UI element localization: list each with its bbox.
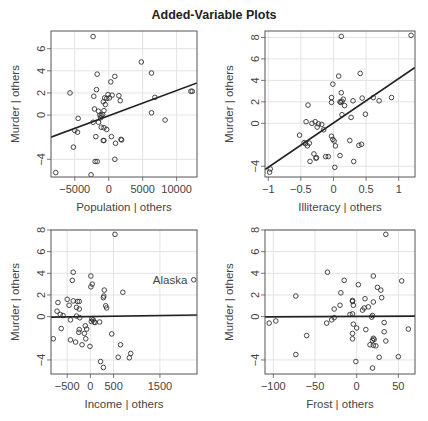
data-point <box>109 134 114 139</box>
data-point <box>58 312 63 317</box>
y-axis-label: Murder | others <box>9 263 21 341</box>
data-point <box>332 307 337 312</box>
y-tick-label: 6 <box>35 249 47 255</box>
data-point <box>116 355 121 360</box>
data-point <box>336 74 341 79</box>
data-point <box>377 355 382 360</box>
plot-frame <box>51 31 197 177</box>
regression-line <box>265 316 415 317</box>
data-point <box>294 294 299 299</box>
data-point <box>267 321 272 326</box>
y-tick-label: 0 <box>35 112 47 118</box>
data-point <box>117 93 122 98</box>
x-axis-label: Illiteracy | others <box>298 201 382 213</box>
added-variable-plots: −50000500010000−40246Population | others… <box>0 0 428 421</box>
data-point <box>113 141 118 146</box>
data-point <box>306 103 311 108</box>
data-point <box>377 98 382 103</box>
data-point <box>339 290 344 295</box>
data-point <box>149 111 154 116</box>
grid <box>265 230 415 374</box>
data-point <box>351 322 356 327</box>
y-tick-label: 0 <box>249 120 261 126</box>
data-point <box>371 274 376 279</box>
data-point <box>379 288 384 293</box>
x-tick-label: 1 <box>396 183 402 195</box>
data-point <box>94 134 99 139</box>
y-tick-label: 4 <box>249 270 261 276</box>
x-tick-label: 50 <box>392 380 404 392</box>
data-point <box>389 95 394 100</box>
y-tick-label: 2 <box>35 90 47 96</box>
data-point <box>59 326 64 331</box>
y-tick-label: 0 <box>35 314 47 320</box>
data-point <box>324 321 329 326</box>
y-axis-label: Murder | others <box>223 263 235 341</box>
x-tick-label: 10000 <box>161 183 192 195</box>
data-point <box>101 365 106 370</box>
data-point <box>76 116 81 121</box>
panel-illiteracy: −1−0.500.51−402468Illiteracy | othersMur… <box>223 31 415 213</box>
data-point <box>347 138 352 143</box>
data-point <box>399 279 404 284</box>
y-tick-label: 4 <box>249 77 261 83</box>
x-tick-label: 0 <box>87 380 93 392</box>
data-point <box>409 33 414 38</box>
scatter-points <box>51 232 196 370</box>
y-tick-label: 2 <box>35 292 47 298</box>
data-point <box>406 327 411 332</box>
y-tick-label: 6 <box>35 46 47 52</box>
x-tick-label: 0 <box>330 183 336 195</box>
data-point <box>338 303 343 308</box>
data-point <box>80 342 85 347</box>
data-point <box>68 338 73 343</box>
data-point <box>370 366 375 371</box>
data-point <box>53 170 58 175</box>
x-axis-label: Income | others <box>84 398 163 410</box>
x-tick-label: −1 <box>262 183 275 195</box>
data-point <box>342 103 347 108</box>
data-point <box>363 112 368 117</box>
data-point <box>325 270 330 275</box>
data-point <box>360 96 365 101</box>
data-point <box>83 337 88 342</box>
data-point <box>349 115 354 120</box>
point-annotation: Alaska <box>153 274 188 286</box>
data-point <box>350 331 355 336</box>
x-axis-label: Population | others <box>76 201 172 213</box>
x-tick-label: 0 <box>354 380 360 392</box>
data-point <box>70 278 75 283</box>
y-tick-label: 2 <box>249 99 261 105</box>
data-point <box>97 320 102 325</box>
data-point <box>308 159 313 164</box>
data-point <box>384 232 389 237</box>
y-tick-label: −4 <box>35 354 47 367</box>
data-point <box>149 71 154 76</box>
y-tick-label: 8 <box>249 34 261 40</box>
y-tick-label: −4 <box>249 160 261 173</box>
data-point <box>331 82 336 87</box>
data-point <box>319 122 324 127</box>
panel-income: −50005001500−402468Income | othersMurder… <box>9 227 197 410</box>
x-tick-label: 0 <box>106 183 112 195</box>
data-point <box>382 329 387 334</box>
data-point <box>191 278 196 283</box>
grid <box>51 31 197 177</box>
x-tick-label: −500 <box>55 380 80 392</box>
data-point <box>379 295 384 300</box>
y-tick-label: 6 <box>249 56 261 62</box>
data-point <box>51 337 56 342</box>
data-point <box>121 290 126 295</box>
data-point <box>95 72 100 77</box>
y-tick-label: 8 <box>249 227 261 233</box>
y-axis-label: Murder | others <box>223 65 235 143</box>
panel-population: −50000500010000−40246Population | others… <box>9 31 197 213</box>
data-point <box>351 159 356 164</box>
data-point <box>382 320 387 325</box>
y-tick-label: 8 <box>35 227 47 233</box>
x-tick-label: 1500 <box>148 380 172 392</box>
data-point <box>304 333 309 338</box>
data-point <box>364 327 369 332</box>
grid <box>51 230 197 374</box>
data-point <box>118 342 123 347</box>
